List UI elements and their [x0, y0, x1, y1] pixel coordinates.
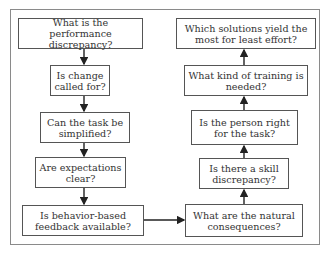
connector-arrows — [0, 0, 331, 254]
